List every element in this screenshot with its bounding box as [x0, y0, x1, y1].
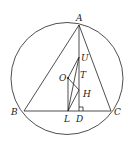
triangle-abc — [24, 25, 111, 111]
label-u: U — [81, 53, 89, 63]
label-o: O — [59, 73, 67, 83]
label-c: C — [114, 107, 121, 117]
label-d: D — [75, 114, 83, 124]
label-b: B — [10, 107, 18, 117]
label-l: L — [63, 114, 70, 124]
right-angle-marker — [79, 107, 83, 111]
segment-lh — [68, 90, 79, 111]
label-h: H — [82, 89, 91, 99]
label-t: T — [80, 70, 87, 80]
label-a: A — [75, 13, 83, 23]
segment-lu — [68, 57, 79, 111]
geometry-diagram: A B C L D O U T H — [0, 0, 133, 143]
point-o-dot — [67, 77, 69, 79]
segment-ou — [68, 57, 79, 78]
